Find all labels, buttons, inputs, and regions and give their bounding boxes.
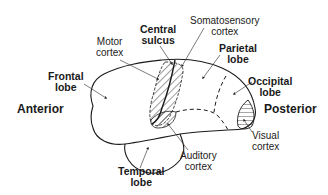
label-line: Visual bbox=[252, 130, 279, 141]
label-line: cortex bbox=[190, 26, 259, 37]
leader-frontal bbox=[84, 84, 106, 98]
label-auditory-cortex: Auditory cortex bbox=[180, 150, 217, 172]
label-line: cortex bbox=[180, 161, 217, 172]
label-line: Motor bbox=[96, 36, 123, 47]
label-line: lobe bbox=[219, 54, 257, 65]
label-motor-cortex: Motor cortex bbox=[96, 36, 123, 58]
label-visual-cortex: Visual cortex bbox=[252, 130, 279, 152]
label-line: sulcus bbox=[140, 35, 176, 46]
label-temporal-lobe: Temporal lobe bbox=[118, 166, 164, 188]
label-line: lobe bbox=[48, 82, 84, 93]
label-frontal-lobe: Frontal lobe bbox=[48, 71, 84, 93]
parietal-occipital-boundary bbox=[214, 76, 226, 112]
parietal-temporal-boundary bbox=[176, 109, 228, 130]
visual-cortex-region bbox=[237, 100, 254, 129]
label-line: Somatosensory bbox=[190, 15, 259, 26]
label-line: lobe bbox=[248, 87, 292, 98]
label-parietal-lobe: Parietal lobe bbox=[219, 43, 257, 65]
label-posterior: Posterior bbox=[264, 104, 317, 115]
leader-central-sulcus bbox=[160, 46, 172, 64]
label-line: cortex bbox=[96, 47, 123, 58]
label-line: Auditory bbox=[180, 150, 217, 161]
label-line: lobe bbox=[118, 177, 164, 188]
label-occipital-lobe: Occipital lobe bbox=[248, 76, 292, 98]
label-somatosensory-cortex: Somatosensory cortex bbox=[190, 15, 259, 37]
label-central-sulcus: Central sulcus bbox=[140, 24, 176, 46]
label-line: cortex bbox=[252, 141, 279, 152]
leader-auditory bbox=[168, 124, 188, 150]
label-anterior: Anterior bbox=[17, 104, 64, 115]
